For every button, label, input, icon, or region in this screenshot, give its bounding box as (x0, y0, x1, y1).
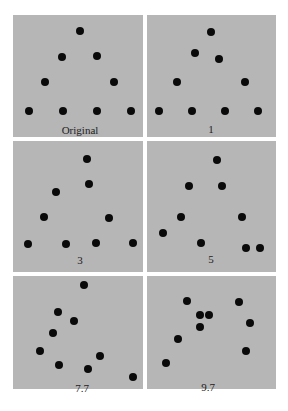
dot (235, 298, 243, 306)
panel-label: 9.7 (201, 382, 215, 393)
panel-3 (13, 141, 143, 272)
dot (218, 182, 226, 190)
dot (129, 239, 137, 247)
dot (105, 214, 113, 222)
dot (93, 52, 101, 60)
dot (197, 239, 205, 247)
panel-label: 1 (208, 124, 214, 135)
dot (159, 229, 167, 237)
dot (58, 53, 66, 61)
dot (183, 297, 191, 305)
panel-label: 5 (208, 254, 214, 265)
dot (196, 323, 204, 331)
dot (93, 107, 101, 115)
dot (96, 352, 104, 360)
dot (80, 281, 88, 289)
dot (129, 373, 137, 381)
panel-label: 3 (77, 255, 83, 266)
dot (83, 155, 91, 163)
dot (191, 49, 199, 57)
dot (110, 78, 118, 86)
dot (254, 107, 262, 115)
panel-label: Original (62, 125, 99, 136)
dot (49, 329, 57, 337)
dot (155, 107, 163, 115)
dot (177, 213, 185, 221)
dot (185, 182, 193, 190)
dot (246, 319, 254, 327)
dot (196, 311, 204, 319)
dot (215, 55, 223, 63)
panel-label: 7.7 (75, 383, 89, 394)
dot (127, 107, 135, 115)
dot (70, 317, 78, 325)
panel-5 (13, 276, 143, 389)
dot (242, 347, 250, 355)
dot (52, 188, 60, 196)
dot (242, 244, 250, 252)
dot (238, 213, 246, 221)
dot (76, 27, 84, 35)
dot (256, 244, 264, 252)
dot (40, 213, 48, 221)
dot (162, 359, 170, 367)
dot (41, 78, 49, 86)
dot (84, 365, 92, 373)
dot (207, 28, 215, 36)
dot (92, 239, 100, 247)
dot (25, 107, 33, 115)
dot (188, 107, 196, 115)
dot (213, 156, 221, 164)
panel-6 (147, 276, 276, 389)
dot (174, 335, 182, 343)
dot (24, 240, 32, 248)
dot (62, 240, 70, 248)
dot (205, 311, 213, 319)
dot (55, 361, 63, 369)
dot (173, 78, 181, 86)
dot (36, 347, 44, 355)
dot (221, 107, 229, 115)
dot (241, 78, 249, 86)
dot (54, 308, 62, 316)
dot (85, 180, 93, 188)
dot (59, 107, 67, 115)
